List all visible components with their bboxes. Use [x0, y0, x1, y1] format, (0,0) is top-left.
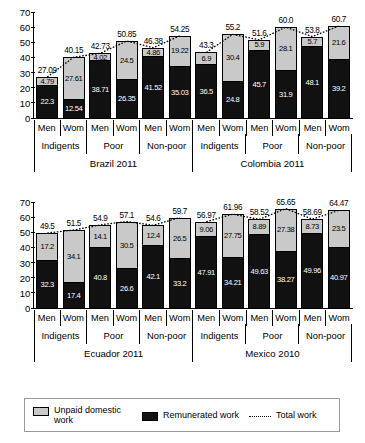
unpaid-work-segment[interactable]: 5.7 [302, 38, 322, 47]
unpaid-work-segment[interactable]: 6.9 [196, 53, 216, 63]
remunerated-value-label: 22.3 [40, 98, 54, 106]
bar-group[interactable]: 19.2235.0354.25 [167, 12, 194, 118]
stacked-bar[interactable]: 9.0647.91 [195, 222, 217, 308]
unpaid-work-segment[interactable]: 12.4 [143, 226, 163, 245]
stacked-bar[interactable]: 28.131.9 [275, 27, 297, 118]
unpaid-work-segment[interactable]: 8.73 [302, 220, 322, 233]
bar-group[interactable]: 27.6112.5440.15 [61, 12, 88, 118]
stacked-bar[interactable]: 5.945.7 [248, 40, 270, 118]
unpaid-work-segment[interactable]: 8.89 [249, 220, 269, 233]
remunerated-work-segment[interactable]: 24.8 [223, 81, 243, 118]
bar-group[interactable]: 17.232.349.5 [34, 202, 61, 308]
unpaid-work-segment[interactable]: 34.1 [64, 231, 84, 282]
bar-group[interactable]: 23.540.9764.47 [326, 202, 353, 308]
stacked-bar[interactable]: 26.533.2 [169, 218, 191, 308]
bar-group[interactable]: 26.533.259.7 [167, 202, 194, 308]
bar-group[interactable]: 4.8641.5246.38 [140, 12, 167, 118]
remunerated-work-segment[interactable]: 45.7 [249, 50, 269, 118]
remunerated-work-segment[interactable]: 35.03 [170, 66, 190, 118]
stacked-bar[interactable]: 14.140.8 [89, 225, 111, 308]
remunerated-work-segment[interactable]: 31.9 [276, 70, 296, 118]
remunerated-work-segment[interactable]: 22.3 [37, 85, 57, 118]
bar-group[interactable]: 34.117.451.5 [61, 202, 88, 308]
stacked-bar[interactable]: 17.232.3 [36, 233, 58, 308]
bar-group[interactable]: 9.0647.9156.97 [193, 202, 220, 308]
remunerated-work-segment[interactable]: 40.8 [90, 247, 110, 308]
stacked-bar[interactable]: 30.526.6 [116, 222, 138, 308]
stacked-bar[interactable]: 21.639.2 [328, 26, 350, 118]
unpaid-work-segment[interactable]: 30.4 [223, 35, 243, 80]
remunerated-work-segment[interactable]: 26.35 [117, 79, 137, 118]
bar-group[interactable]: 30.526.657.1 [114, 202, 141, 308]
stacked-bar[interactable]: 23.540.97 [328, 210, 350, 308]
bottom-country-labels: Ecuador 2011Mexico 2010 [34, 344, 352, 362]
unpaid-work-segment[interactable]: 27.61 [64, 58, 84, 99]
remunerated-work-segment[interactable]: 17.4 [64, 282, 84, 308]
remunerated-work-segment[interactable]: 38.71 [90, 60, 110, 118]
stacked-bar[interactable]: 27.7534.21 [222, 214, 244, 308]
stacked-bar[interactable]: 30.424.8 [222, 34, 244, 118]
remunerated-work-segment[interactable]: 49.63 [249, 234, 269, 308]
unpaid-work-segment[interactable]: 30.5 [117, 223, 137, 269]
unpaid-work-segment[interactable]: 28.1 [276, 28, 296, 70]
bar-group[interactable]: 8.7349.9658.69 [299, 202, 326, 308]
remunerated-work-segment[interactable]: 34.21 [223, 257, 243, 308]
stacked-bar[interactable]: 5.748.1 [301, 37, 323, 118]
stacked-bar[interactable]: 19.2235.03 [169, 36, 191, 118]
unpaid-value-label: 8.89 [252, 223, 266, 231]
bar-group[interactable]: 4.7922.327.09 [34, 12, 61, 118]
stacked-bar[interactable]: 8.7349.96 [301, 219, 323, 308]
unpaid-work-segment[interactable]: 14.1 [90, 226, 110, 247]
x-axis-group-label: Indigents [193, 326, 246, 344]
stacked-bar[interactable]: 4.7922.3 [36, 77, 58, 118]
stacked-bar[interactable]: 4.8641.52 [142, 48, 164, 118]
remunerated-work-segment[interactable]: 40.97 [329, 247, 349, 308]
remunerated-work-segment[interactable]: 33.2 [170, 258, 190, 308]
bar-group[interactable]: 24.526.3550.85 [114, 12, 141, 118]
stacked-bar[interactable]: 6.936.5 [195, 52, 217, 118]
remunerated-work-segment[interactable]: 32.3 [37, 260, 57, 308]
unpaid-work-segment[interactable]: 24.5 [117, 42, 137, 79]
remunerated-work-segment[interactable]: 41.52 [143, 56, 163, 118]
unpaid-work-segment[interactable]: 5.9 [249, 41, 269, 50]
unpaid-work-segment[interactable]: 9.06 [196, 223, 216, 237]
unpaid-work-segment[interactable]: 26.5 [170, 219, 190, 259]
unpaid-work-segment[interactable]: 21.6 [329, 27, 349, 59]
stacked-bar[interactable]: 8.8949.63 [248, 219, 270, 308]
stacked-bar[interactable]: 34.117.4 [63, 230, 85, 308]
remunerated-work-segment[interactable]: 12.54 [64, 99, 84, 118]
unpaid-work-segment[interactable]: 27.38 [276, 210, 296, 251]
unpaid-work-segment[interactable]: 27.75 [223, 215, 243, 257]
total-work-value-label: 46.38 [144, 37, 163, 46]
stacked-bar[interactable]: 27.3838.27 [275, 209, 297, 308]
bar-group[interactable]: 21.639.260.7 [326, 12, 353, 118]
bar-group[interactable]: 12.442.154.6 [140, 202, 167, 308]
stacked-bar[interactable]: 12.442.1 [142, 225, 164, 308]
bar-group[interactable]: 27.7534.2161.96 [220, 202, 247, 308]
bar-group[interactable]: 6.936.543.3 [193, 12, 220, 118]
unpaid-work-segment[interactable]: 19.22 [170, 37, 190, 66]
bar-group[interactable]: 30.424.855.2 [220, 12, 247, 118]
unpaid-work-segment[interactable]: 17.2 [37, 234, 57, 260]
unpaid-work-segment[interactable]: 4.79 [37, 78, 57, 85]
stacked-bar[interactable]: 24.526.35 [116, 41, 138, 118]
bar-group[interactable]: 5.945.751.6 [246, 12, 273, 118]
remunerated-work-segment[interactable]: 48.1 [302, 46, 322, 118]
stacked-bar[interactable]: 4.0238.71 [89, 53, 111, 118]
remunerated-work-segment[interactable]: 42.1 [143, 245, 163, 308]
remunerated-work-segment[interactable]: 47.91 [196, 236, 216, 308]
unpaid-work-segment[interactable]: 4.86 [143, 49, 163, 56]
remunerated-work-segment[interactable]: 49.96 [302, 233, 322, 308]
stacked-bar[interactable]: 27.6112.54 [63, 57, 85, 118]
remunerated-work-segment[interactable]: 39.2 [329, 59, 349, 118]
remunerated-work-segment[interactable]: 38.27 [276, 251, 296, 308]
bar-group[interactable]: 28.131.960.0 [273, 12, 300, 118]
remunerated-work-segment[interactable]: 26.6 [117, 268, 137, 308]
bar-group[interactable]: 14.140.854.9 [87, 202, 114, 308]
bar-group[interactable]: 27.3838.2765.65 [273, 202, 300, 308]
bar-group[interactable]: 8.8949.6358.52 [246, 202, 273, 308]
bar-group[interactable]: 4.0238.7142.73 [87, 12, 114, 118]
unpaid-work-segment[interactable]: 23.5 [329, 211, 349, 246]
remunerated-work-segment[interactable]: 36.5 [196, 64, 216, 118]
bar-group[interactable]: 5.748.153.8 [299, 12, 326, 118]
